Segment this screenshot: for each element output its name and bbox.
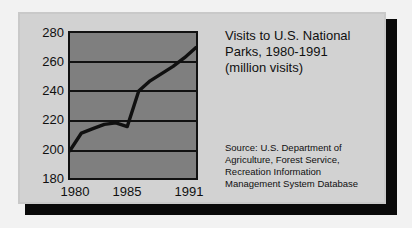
y-tick-220: 220 bbox=[24, 113, 64, 126]
x-tick-1991: 1991 bbox=[168, 185, 210, 198]
y-tick-260: 260 bbox=[24, 55, 64, 68]
y-tick-240: 240 bbox=[24, 84, 64, 97]
plot-area bbox=[68, 31, 198, 180]
y-tick-180: 180 bbox=[24, 172, 64, 185]
data-line-svg bbox=[70, 33, 196, 178]
chart-figure: 280 260 240 220 200 180 1980 1985 1991 bbox=[18, 12, 390, 208]
chart-source-line-1: Source: U.S. Department of bbox=[225, 142, 385, 154]
chart-title: Visits to U.S. National Parks, 1980-1991… bbox=[225, 28, 380, 76]
chart-source-line-2: Agriculture, Forest Service, bbox=[225, 154, 385, 166]
x-tick-1980: 1980 bbox=[54, 185, 96, 198]
y-tick-280: 280 bbox=[24, 26, 64, 39]
plot-block: 280 260 240 220 200 180 1980 1985 1991 bbox=[50, 19, 215, 201]
chart-title-line-2: Parks, 1980-1991 bbox=[225, 44, 380, 60]
chart-source-line-3: Recreation Information bbox=[225, 166, 385, 178]
chart-title-line-3: (million visits) bbox=[225, 60, 380, 76]
chart-title-line-1: Visits to U.S. National bbox=[225, 28, 380, 44]
y-tick-200: 200 bbox=[24, 143, 64, 156]
x-tick-1985: 1985 bbox=[106, 185, 148, 198]
chart-source-line-4: Management System Database bbox=[225, 178, 385, 190]
chart-source-note: Source: U.S. Department of Agriculture, … bbox=[225, 142, 385, 191]
chart-card: 280 260 240 220 200 180 1980 1985 1991 bbox=[18, 12, 386, 204]
